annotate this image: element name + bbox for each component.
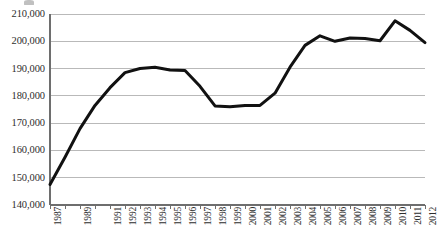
x-tick-label: 1992 (129, 207, 139, 225)
data-line-series-1 (50, 21, 425, 185)
x-tick-label: 1997 (204, 207, 214, 225)
x-tick-label: 1991 (114, 207, 124, 225)
x-tick-label: 1987 (54, 207, 64, 225)
x-tick-label: 2008 (369, 207, 379, 225)
x-tick-label: 2001 (264, 207, 274, 225)
x-tick-label: 1993 (144, 207, 154, 225)
x-tick-label: 1989 (84, 207, 94, 225)
x-tick-label: 1998 (219, 207, 229, 225)
x-tick-label: 2003 (294, 207, 304, 225)
x-tick-label: 2012 (429, 207, 439, 225)
x-tick-label: 2011 (414, 207, 424, 225)
x-tick-label: 2004 (309, 207, 319, 225)
x-axis-labels: 1987 1989 1991 1992 1993 1994 1995 1996 … (0, 206, 441, 246)
x-tick-label: 1994 (159, 207, 169, 225)
x-tick-label: 2010 (399, 207, 409, 225)
x-tick-label: 2000 (249, 207, 259, 225)
x-tick-label: 2006 (339, 207, 349, 225)
x-tick-label: 2002 (279, 207, 289, 225)
x-tick-label: 1995 (174, 207, 184, 225)
line-chart: 210,000 200,000 190,000 180,000 170,000 … (0, 0, 441, 246)
x-tick-label: 1999 (234, 207, 244, 225)
x-tick-label: 2005 (324, 207, 334, 225)
x-tick-label: 2007 (354, 207, 364, 225)
x-tick-label: 1996 (189, 207, 199, 225)
x-tick-label: 2009 (384, 207, 394, 225)
